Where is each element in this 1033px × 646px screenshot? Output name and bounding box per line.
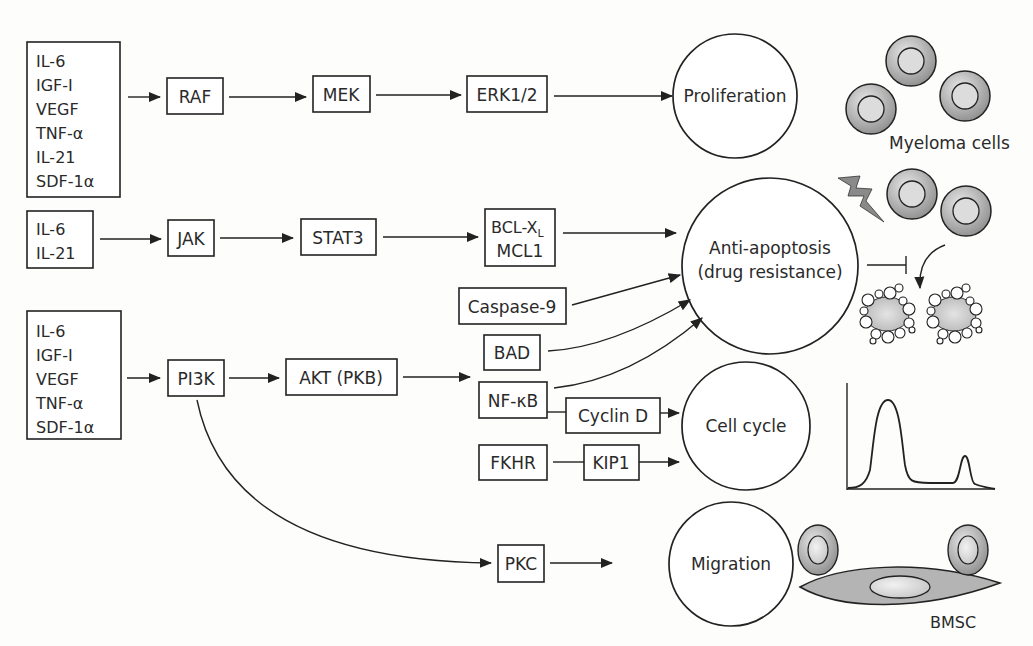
- svg-text:STAT3: STAT3: [312, 228, 363, 248]
- erk-node: ERK1/2: [467, 76, 547, 112]
- svg-text:BAD: BAD: [494, 343, 530, 363]
- raf-node: RAF: [167, 78, 223, 114]
- svg-text:PI3K: PI3K: [177, 369, 215, 389]
- row1-ligand-box: IL-6 IGF-I VEGF TNF-α IL-21 SDF-1α: [27, 42, 120, 197]
- anti-apoptosis-outcome: Anti-apoptosis (drug resistance): [682, 178, 858, 354]
- arrow: [554, 318, 702, 388]
- ligand-label: VEGF: [36, 100, 79, 119]
- svg-text:KIP1: KIP1: [592, 453, 629, 473]
- cell-cycle-outcome: Cell cycle: [682, 362, 810, 490]
- svg-text:Cyclin D: Cyclin D: [578, 406, 648, 426]
- stat3-node: STAT3: [301, 219, 376, 255]
- svg-text:IL-6: IL-6: [36, 322, 65, 341]
- row3-ligand-box: IL-6 IGF-I VEGF TNF-α SDF-1α: [27, 311, 121, 439]
- svg-text:Migration: Migration: [691, 554, 771, 574]
- svg-text:(drug resistance): (drug resistance): [697, 262, 842, 282]
- myeloma-label: Myeloma cells: [889, 133, 1010, 153]
- ligand-label: SDF-1α: [36, 172, 94, 191]
- migration-outcome: Migration: [669, 502, 793, 626]
- svg-text:TNF-α: TNF-α: [35, 394, 83, 413]
- pi3k-node: PI3K: [168, 360, 224, 396]
- svg-text:MCL1: MCL1: [497, 241, 544, 261]
- svg-text:SDF-1α: SDF-1α: [36, 418, 94, 437]
- apoptotic-cells-illustration: [860, 284, 982, 344]
- svg-text:NF-κB: NF-κB: [488, 391, 538, 411]
- ligand-label: IL-6: [36, 52, 65, 71]
- svg-text:VEGF: VEGF: [36, 370, 79, 389]
- cyclin-d-node: Cyclin D: [566, 398, 660, 433]
- apoptosis-arrow: [920, 245, 945, 288]
- bad-node: BAD: [484, 335, 540, 370]
- svg-text:IL-6: IL-6: [36, 220, 65, 239]
- svg-text:IL-21: IL-21: [36, 244, 75, 263]
- ligand-label: TNF-α: [35, 124, 83, 143]
- treated-myeloma-cells: [887, 169, 991, 236]
- svg-text:MEK: MEK: [323, 85, 360, 105]
- mek-node: MEK: [313, 76, 370, 112]
- svg-text:AKT (PKB): AKT (PKB): [299, 368, 383, 388]
- ligand-label: IGF-I: [36, 76, 73, 95]
- ligand-label: IL-21: [36, 148, 75, 167]
- svg-text:ERK1/2: ERK1/2: [476, 85, 537, 105]
- arrow: [197, 400, 491, 563]
- svg-text:FKHR: FKHR: [490, 453, 536, 473]
- svg-text:Cell cycle: Cell cycle: [705, 416, 786, 436]
- svg-text:RAF: RAF: [179, 87, 212, 107]
- svg-text:Caspase-9: Caspase-9: [468, 297, 557, 317]
- row2-ligand-box: IL-6 IL-21: [27, 211, 93, 268]
- myeloma-cells-illustration: Myeloma cells: [846, 36, 1010, 153]
- fkhr-node: FKHR: [479, 445, 547, 480]
- svg-text:PKC: PKC: [505, 554, 537, 574]
- pkc-node: PKC: [498, 545, 544, 582]
- svg-text:Proliferation: Proliferation: [684, 86, 787, 106]
- jak-node: JAK: [168, 220, 214, 256]
- svg-text:IGF-I: IGF-I: [36, 346, 73, 365]
- caspase9-node: Caspase-9: [459, 288, 566, 324]
- signaling-pathway-diagram: IL-6 IGF-I VEGF TNF-α IL-21 SDF-1α RAF M…: [0, 0, 1033, 646]
- cell-cycle-histogram: [847, 383, 995, 490]
- svg-text:Anti-apoptosis: Anti-apoptosis: [709, 238, 831, 258]
- svg-text:JAK: JAK: [176, 229, 205, 249]
- nfkb-node: NF-κB: [479, 382, 547, 418]
- bmsc-label: BMSC: [930, 613, 976, 632]
- kip1-node: KIP1: [584, 445, 639, 480]
- svg-text:BCL-XL: BCL-XL: [491, 218, 544, 240]
- arrow: [572, 275, 680, 305]
- bcl-mcl-node: BCL-XL MCL1: [485, 209, 555, 266]
- akt-node: AKT (PKB): [286, 359, 397, 395]
- bmsc-illustration: BMSC: [798, 525, 1000, 632]
- drug-lightning-icon: [838, 176, 884, 222]
- proliferation-outcome: Proliferation: [673, 34, 797, 158]
